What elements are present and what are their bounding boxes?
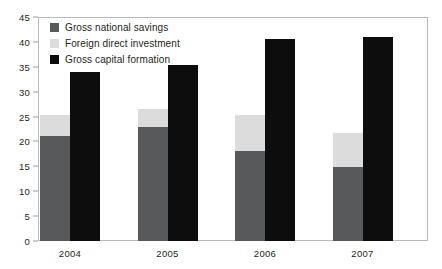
legend-swatch-icon [50,39,59,48]
bar-chart: 051015202530354045 2004200520062007 Gros… [0,0,442,269]
y-axis-tick-label: 35 [19,61,30,72]
legend-item-label: Foreign direct investment [65,38,180,49]
x-axis: 2004200520062007 [38,241,428,269]
bar-gross-capital-formation [265,39,295,241]
legend-swatch-icon [50,23,59,32]
legend-item: Gross capital formation [50,52,180,67]
legend-item-label: Gross national savings [65,22,168,33]
y-axis-tick-label: 0 [25,236,30,247]
x-axis-tick-label: 2007 [351,248,373,259]
bar-group [235,17,295,241]
bar-foreign-direct-investment [333,133,363,168]
y-axis-tick-label: 20 [19,136,30,147]
bar-gross-national-savings [333,167,363,241]
legend-item-label: Gross capital formation [65,54,170,65]
y-axis-tick-label: 45 [19,12,30,23]
bar-gross-national-savings [138,127,168,241]
y-axis-tick-label: 40 [19,36,30,47]
legend-item: Gross national savings [50,20,180,35]
bar-foreign-direct-investment [138,109,168,126]
bar-group [333,17,393,241]
bar-gross-capital-formation [363,37,393,241]
y-axis: 051015202530354045 [0,0,38,269]
legend-item: Foreign direct investment [50,36,180,51]
x-axis-tick-label: 2004 [59,248,81,259]
bar-foreign-direct-investment [40,115,70,137]
y-axis-tick-label: 15 [19,161,30,172]
y-axis-tick-label: 30 [19,86,30,97]
bar-gross-capital-formation [168,65,198,241]
bar-gross-national-savings [40,136,70,241]
legend-swatch-icon [50,55,59,64]
y-axis-tick-label: 25 [19,111,30,122]
x-axis-tick-label: 2006 [254,248,276,259]
y-axis-tick-label: 5 [25,211,30,222]
bar-foreign-direct-investment [235,115,265,151]
chart-legend: Gross national savingsForeign direct inv… [50,20,180,67]
y-axis-tick-label: 10 [19,186,30,197]
bar-gross-capital-formation [70,72,100,241]
bar-gross-national-savings [235,151,265,241]
x-axis-tick-label: 2005 [156,248,178,259]
